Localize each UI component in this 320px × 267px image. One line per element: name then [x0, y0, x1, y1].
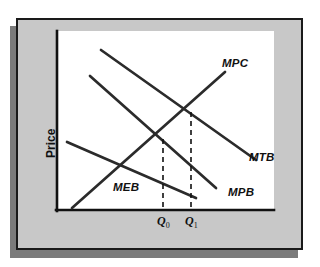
curve-label-mtb: MTB	[249, 151, 275, 163]
x-tick-q0-subscript: 0	[166, 221, 170, 230]
curve-label-meb: MEB	[113, 181, 139, 193]
x-tick-label-q1: Q1	[185, 214, 198, 230]
curve-label-mpb: MPB	[228, 186, 254, 198]
curve-mpb	[90, 76, 216, 188]
x-tick-label-q0: Q0	[157, 214, 170, 230]
x-tick-q0-base: Q	[157, 214, 166, 228]
curve-mpc	[72, 72, 225, 208]
x-tick-q1-subscript: 1	[194, 221, 198, 230]
x-tick-q1-base: Q	[185, 214, 194, 228]
figure-root: MPC MTB MPB MEB Q0 Q1 Price	[0, 0, 320, 267]
curve-label-mpc: MPC	[222, 57, 248, 69]
y-axis-title: Price	[44, 129, 58, 158]
